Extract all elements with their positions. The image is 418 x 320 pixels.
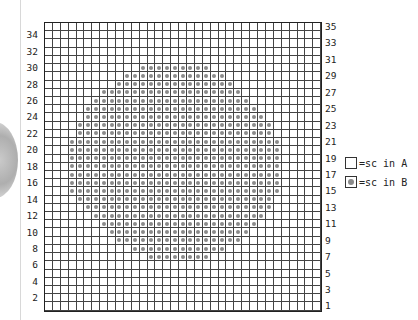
stitch-cell-color-b [250, 105, 258, 113]
stitch-cell-color-a [53, 294, 61, 302]
stitch-cell-color-b [187, 130, 195, 138]
stitch-cell-color-a [116, 23, 124, 31]
stitch-cell-color-a [282, 130, 290, 138]
stitch-cell-color-a [305, 171, 313, 179]
stitch-cell-color-b [84, 130, 92, 138]
stitch-cell-color-b [132, 72, 140, 80]
stitch-cell-color-a [155, 302, 163, 310]
stitch-cell-color-b [195, 163, 203, 171]
stitch-cell-color-b [211, 163, 219, 171]
stitch-cell-color-a [45, 39, 53, 47]
stitch-cell-color-b [155, 97, 163, 105]
stitch-cell-color-a [69, 212, 77, 220]
stitch-cell-color-b [84, 196, 92, 204]
stitch-cell-color-a [290, 23, 298, 31]
stitch-cell-color-b [140, 171, 148, 179]
stitch-cell-color-a [258, 39, 266, 47]
stitch-cell-color-a [313, 278, 321, 286]
stitch-cell-color-a [313, 122, 321, 130]
stitch-cell-color-a [61, 196, 69, 204]
stitch-cell-color-a [61, 23, 69, 31]
stitch-cell-color-b [140, 81, 148, 89]
stitch-cell-color-a [84, 228, 92, 236]
stitch-cell-color-a [77, 81, 85, 89]
stitch-cell-color-a [108, 81, 116, 89]
stitch-cell-color-a [132, 31, 140, 39]
stitch-cell-color-b [155, 171, 163, 179]
stitch-cell-color-a [108, 278, 116, 286]
stitch-cell-color-a [305, 286, 313, 294]
stitch-cell-color-a [226, 31, 234, 39]
stitch-cell-color-a [242, 64, 250, 72]
stitch-cell-color-b [132, 220, 140, 228]
stitch-cell-color-b [124, 171, 132, 179]
stitch-cell-color-a [313, 163, 321, 171]
stitch-cell-color-b [163, 138, 171, 146]
stitch-cell-color-b [92, 113, 100, 121]
stitch-cell-color-b [195, 97, 203, 105]
stitch-cell-color-a [266, 39, 274, 47]
stitch-cell-color-a [250, 286, 258, 294]
stitch-cell-color-a [155, 261, 163, 269]
stitch-cell-color-a [290, 237, 298, 245]
stitch-cell-color-b [203, 179, 211, 187]
stitch-cell-color-a [305, 113, 313, 121]
stitch-cell-color-a [140, 270, 148, 278]
stitch-cell-color-a [92, 72, 100, 80]
stitch-cell-color-a [219, 294, 227, 302]
stitch-cell-color-a [234, 245, 242, 253]
stitch-cell-color-b [132, 163, 140, 171]
stitch-cell-color-a [92, 261, 100, 269]
stitch-cell-color-b [234, 237, 242, 245]
stitch-cell-color-b [140, 163, 148, 171]
stitch-cell-color-a [53, 237, 61, 245]
stitch-cell-color-b [163, 122, 171, 130]
stitch-cell-color-a [242, 48, 250, 56]
stitch-cell-color-b [203, 146, 211, 154]
stitch-cell-color-a [108, 23, 116, 31]
stitch-cell-color-b [234, 122, 242, 130]
stitch-cell-color-a [211, 286, 219, 294]
stitch-cell-color-a [258, 245, 266, 253]
stitch-cell-color-a [266, 278, 274, 286]
stitch-cell-color-a [219, 39, 227, 47]
stitch-cell-color-b [242, 138, 250, 146]
stitch-cell-color-a [305, 294, 313, 302]
stitch-cell-color-a [313, 81, 321, 89]
stitch-cell-color-a [282, 261, 290, 269]
stitch-cell-color-b [163, 204, 171, 212]
stitch-cell-color-b [148, 253, 156, 261]
stitch-cell-color-a [195, 261, 203, 269]
stitch-cell-color-b [179, 138, 187, 146]
stitch-cell-color-a [163, 270, 171, 278]
stitch-cell-color-b [171, 171, 179, 179]
stitch-cell-color-a [108, 39, 116, 47]
stitch-cell-color-a [187, 270, 195, 278]
stitch-cell-color-b [171, 196, 179, 204]
stitch-cell-color-b [226, 228, 234, 236]
stitch-cell-color-a [274, 64, 282, 72]
stitch-cell-color-b [195, 130, 203, 138]
stitch-cell-color-b [266, 138, 274, 146]
stitch-cell-color-b [108, 171, 116, 179]
stitch-cell-color-a [298, 56, 306, 64]
stitch-cell-color-a [242, 72, 250, 80]
stitch-cell-color-a [45, 204, 53, 212]
stitch-cell-color-a [132, 56, 140, 64]
stitch-cell-color-a [69, 278, 77, 286]
stitch-cell-color-b [77, 179, 85, 187]
stitch-cell-color-a [282, 105, 290, 113]
stitch-cell-color-a [313, 196, 321, 204]
stitch-cell-color-b [108, 97, 116, 105]
stitch-cell-color-b [140, 89, 148, 97]
stitch-cell-color-a [258, 105, 266, 113]
stitch-cell-color-a [203, 278, 211, 286]
stitch-cell-color-a [124, 278, 132, 286]
stitch-cell-color-b [234, 179, 242, 187]
stitch-cell-color-a [108, 56, 116, 64]
stitch-cell-color-a [266, 64, 274, 72]
stitch-cell-color-b [171, 97, 179, 105]
stitch-cell-color-a [305, 89, 313, 97]
stitch-cell-color-a [69, 89, 77, 97]
stitch-cell-color-a [53, 122, 61, 130]
